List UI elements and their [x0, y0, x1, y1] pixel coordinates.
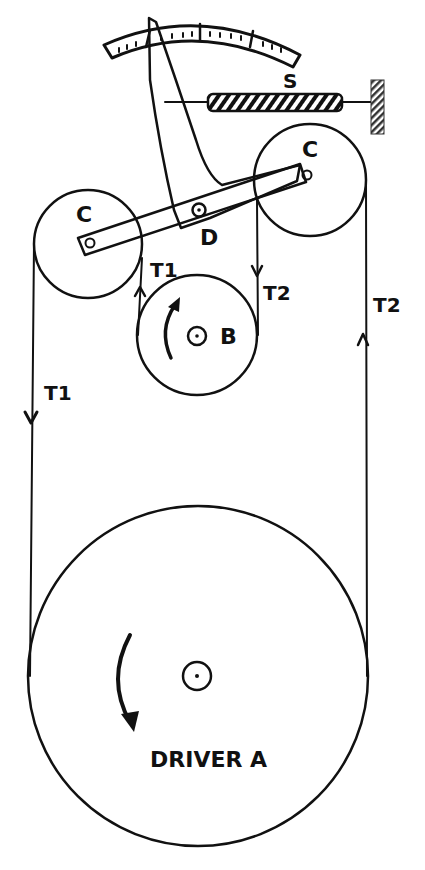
tension-right-outer: T2 — [373, 293, 401, 317]
tension-right-inner: T2 — [263, 281, 291, 305]
driver-label: DRIVER A — [150, 747, 267, 772]
graduated-scale — [104, 24, 300, 67]
pulley-b: B — [137, 275, 257, 395]
belt — [30, 180, 367, 676]
arrowhead-icon — [121, 711, 139, 732]
spring-label: S — [283, 69, 297, 93]
tension-annotations: T1 T1 T2 T2 — [25, 258, 401, 423]
jockey-left-axle-icon — [86, 239, 95, 248]
jockey-pulley-left: C — [34, 190, 142, 298]
jockey-right-label: C — [302, 137, 318, 162]
tension-left-outer: T1 — [44, 381, 72, 405]
belt-right-inner — [257, 200, 258, 335]
pointer-arm — [149, 18, 300, 228]
arrow-down-icon — [25, 412, 37, 423]
rotation-arrow-cw-icon — [165, 305, 175, 358]
spring-s — [208, 94, 342, 111]
driver-axle-dot — [195, 674, 199, 678]
driver-pulley-a: DRIVER A — [28, 506, 368, 846]
jockey-left-label: C — [76, 202, 92, 227]
belt-left-outer — [30, 244, 34, 676]
belt-right-outer — [366, 180, 367, 676]
rotation-arrow-ccw-icon — [118, 635, 130, 722]
dynamometer-diagram: DRIVER A B C C D S T1 — [0, 0, 425, 870]
pulley-b-label: B — [220, 324, 237, 349]
spring-assembly: S — [165, 69, 384, 134]
jockey-pulley-right: C — [254, 124, 366, 236]
pivot-label: D — [200, 225, 218, 250]
wall-anchor — [371, 80, 384, 134]
tension-left-inner: T1 — [150, 258, 178, 282]
